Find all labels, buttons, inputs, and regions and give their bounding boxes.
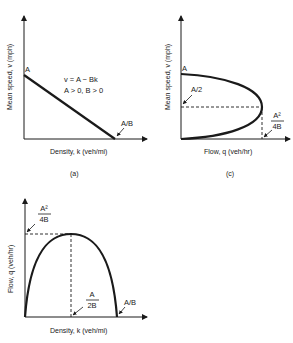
y-axis-label: Flow, q (veh/hr) (7, 245, 15, 293)
pointer-arrow (73, 307, 83, 315)
max-flow-numerator: A² (273, 111, 281, 120)
intercept-label: A (182, 64, 187, 73)
panel-a-speed-density: A v = A − Bk A > 0, B > 0 A/B Mean speed… (6, 16, 147, 178)
pointer-arrow (117, 128, 124, 136)
max-flow-denominator: 4B (272, 122, 281, 131)
xintercept-label: A/B (124, 298, 136, 307)
equation-label: v = A − Bk (64, 75, 98, 84)
panel-b-flow-density: A² 4B A 2B A/B Flow, q (veh/hr) Density,… (7, 199, 147, 335)
x-axis-label: Flow, q (veh/hr) (204, 148, 252, 156)
y-axis-label: Mean speed, v (mph) (6, 44, 14, 110)
optimal-speed-label: A/2 (191, 85, 202, 94)
max-flow-numerator: A² (40, 204, 48, 213)
pointer-arrow (183, 95, 192, 104)
pointer-arrow (119, 307, 125, 314)
panel-c-speed-flow: A A/2 A² 4B Mean speed, v (mph) Flow, q … (164, 16, 290, 178)
max-flow-denominator: 4B (39, 215, 48, 224)
x-axis-label: Density, k (veh/mi) (50, 148, 107, 156)
caption-c: (c) (226, 170, 234, 178)
y-axis-label: Mean speed, v (mph) (164, 44, 172, 110)
intercept-label: A (25, 65, 30, 74)
speed-flow-curve (181, 74, 262, 139)
pointer-arrow (27, 224, 35, 232)
caption-a: (a) (70, 170, 79, 178)
speed-density-line (24, 75, 115, 139)
condition-label: A > 0, B > 0 (64, 86, 103, 95)
traffic-flow-diagram: A v = A − Bk A > 0, B > 0 A/B Mean speed… (0, 0, 293, 343)
pointer-arrow (264, 130, 272, 137)
optimal-density-numerator: A (89, 290, 94, 299)
optimal-density-denominator: 2B (87, 301, 96, 310)
xintercept-label: A/B (121, 119, 133, 128)
x-axis-label: Density, k (veh/mi) (50, 327, 107, 335)
